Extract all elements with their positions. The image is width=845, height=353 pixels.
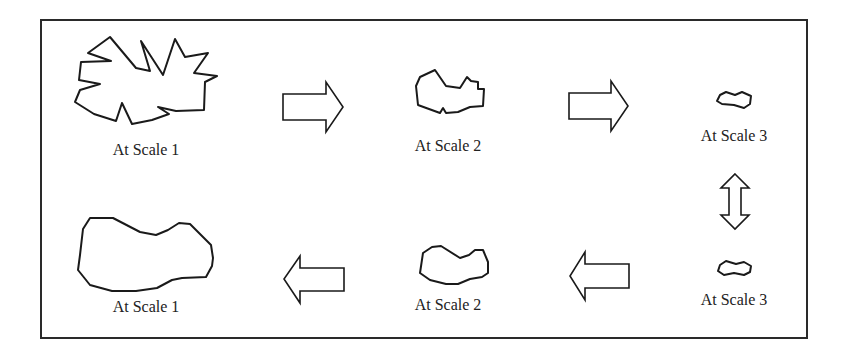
label-bottom-scale-3: At Scale 3 bbox=[701, 292, 768, 308]
shapes-group bbox=[75, 37, 751, 291]
arrow-right-2-icon bbox=[569, 81, 628, 131]
arrow-left-2-icon bbox=[570, 252, 629, 300]
bottom-shape-scale-1 bbox=[78, 218, 213, 291]
arrow-left-1-icon bbox=[284, 256, 344, 303]
label-top-scale-1: At Scale 1 bbox=[113, 142, 180, 158]
top-shape-scale-3 bbox=[717, 92, 751, 108]
bottom-shape-scale-2 bbox=[420, 246, 488, 284]
label-top-scale-3: At Scale 3 bbox=[701, 128, 768, 144]
label-bottom-scale-1: At Scale 1 bbox=[113, 299, 180, 315]
top-shape-scale-2 bbox=[416, 70, 484, 113]
label-bottom-scale-2: At Scale 2 bbox=[415, 297, 482, 313]
arrow-right-1-icon bbox=[283, 82, 343, 132]
top-shape-scale-1 bbox=[75, 37, 217, 124]
label-top-scale-2: At Scale 2 bbox=[415, 138, 482, 154]
bottom-shape-scale-3 bbox=[718, 261, 751, 275]
arrow-updown-icon bbox=[721, 174, 749, 229]
arrows-group bbox=[283, 81, 749, 303]
